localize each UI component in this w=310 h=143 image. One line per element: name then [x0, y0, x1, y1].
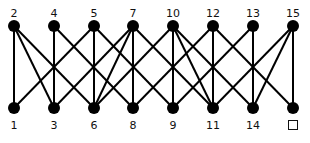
node-label-10: 10: [166, 8, 180, 19]
node-1: [8, 102, 20, 114]
node-label-13: 13: [246, 8, 260, 19]
node-10: [167, 20, 179, 32]
node-5: [88, 20, 100, 32]
node-blank: [287, 102, 299, 114]
edge-7-6: [94, 26, 133, 108]
node-14: [247, 102, 259, 114]
node-label-6: 6: [91, 120, 98, 131]
node-11: [207, 102, 219, 114]
node-label-3: 3: [51, 120, 58, 131]
node-label-5: 5: [91, 8, 98, 19]
node-12: [207, 20, 219, 32]
node-9: [167, 102, 179, 114]
node-label-9: 9: [170, 120, 177, 131]
node-15: [287, 20, 299, 32]
node-8: [127, 102, 139, 114]
node-label-12: 12: [206, 8, 220, 19]
node-layer: [8, 20, 299, 114]
node-label-11: 11: [206, 120, 220, 131]
edge-layer: [14, 26, 293, 108]
node-label-4: 4: [51, 8, 58, 19]
node-4: [48, 20, 60, 32]
node-label-7: 7: [130, 8, 137, 19]
node-7: [127, 20, 139, 32]
node-label-8: 8: [130, 120, 137, 131]
node-3: [48, 102, 60, 114]
node-label-14: 14: [246, 120, 260, 131]
edge-2-3: [14, 26, 54, 108]
node-label-15: 15: [286, 8, 300, 19]
edge-15-14: [253, 26, 293, 108]
edge-10-11: [173, 26, 213, 108]
node-label-1: 1: [11, 120, 18, 131]
bipartite-graph: [0, 0, 310, 143]
node-label-2: 2: [11, 8, 18, 19]
node-6: [88, 102, 100, 114]
node-2: [8, 20, 20, 32]
answer-box: [288, 120, 298, 130]
node-13: [247, 20, 259, 32]
